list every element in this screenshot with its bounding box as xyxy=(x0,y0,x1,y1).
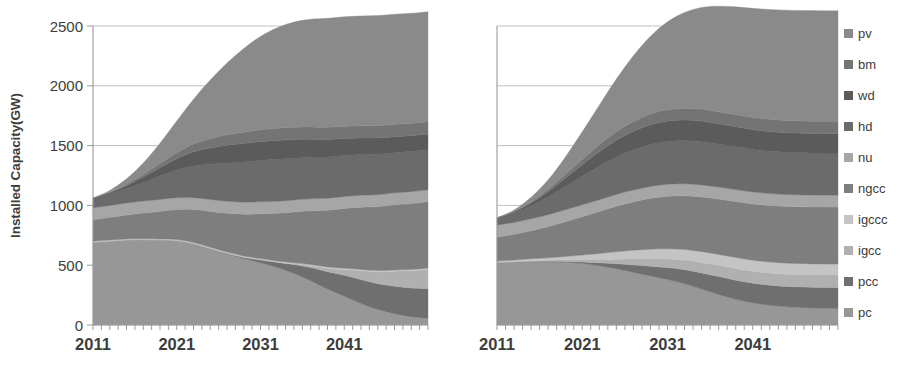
y-tick-label-1500: 1500 xyxy=(50,137,83,154)
chart-panel-left-chart: 050010001500200025002011202120312041 xyxy=(50,12,428,353)
y-tick-label-0: 0 xyxy=(75,317,83,334)
legend-label-pcc: pcc xyxy=(858,275,878,288)
legend-item-pcc[interactable]: pcc xyxy=(844,274,878,288)
legend-swatch-icon-pv xyxy=(844,29,853,38)
figure-root: Installed Capacity(GW) 05001000150020002… xyxy=(0,0,913,387)
legend-item-pc[interactable]: pc xyxy=(844,305,872,319)
legend-swatch-icon-hd xyxy=(844,122,853,131)
legend-item-ngcc[interactable]: ngcc xyxy=(844,181,885,195)
legend-item-igccc[interactable]: igccc xyxy=(844,212,888,226)
x-tick-label-2041: 2041 xyxy=(326,335,363,353)
stacked-area-charts: 0500100015002000250020112021203120412011… xyxy=(0,0,913,387)
y-tick-label-500: 500 xyxy=(58,257,83,274)
legend-item-wd[interactable]: wd xyxy=(844,88,875,102)
legend-label-pc: pc xyxy=(858,306,872,319)
legend-label-nu: nu xyxy=(858,151,872,164)
legend-label-igcc: igcc xyxy=(858,244,881,257)
legend-item-igcc[interactable]: igcc xyxy=(844,243,881,257)
legend-item-nu[interactable]: nu xyxy=(844,150,872,164)
legend-swatch-icon-igcc xyxy=(844,246,853,255)
y-tick-label-1000: 1000 xyxy=(50,197,83,214)
y-tick-label-2000: 2000 xyxy=(50,77,83,94)
chart-panel-right-chart: 2011202120312041 xyxy=(479,6,838,353)
legend-swatch-icon-nu xyxy=(844,153,853,162)
x-tick-label-2021: 2021 xyxy=(564,335,601,353)
x-tick-label-2021: 2021 xyxy=(158,335,195,353)
legend-label-igccc: igccc xyxy=(858,213,888,226)
legend-label-hd: hd xyxy=(858,120,872,133)
chart-legend: pvbmwdhdnungccigcccigccpccpc xyxy=(844,26,913,326)
x-tick-label-2011: 2011 xyxy=(75,335,111,353)
legend-swatch-icon-ngcc xyxy=(844,184,853,193)
legend-swatch-icon-bm xyxy=(844,60,853,69)
legend-label-pv: pv xyxy=(858,27,872,40)
legend-swatch-icon-pcc xyxy=(844,277,853,286)
x-tick-label-2031: 2031 xyxy=(649,335,686,353)
legend-label-bm: bm xyxy=(858,58,876,71)
x-tick-label-2031: 2031 xyxy=(242,335,279,353)
legend-swatch-icon-pc xyxy=(844,308,853,317)
x-tick-label-2011: 2011 xyxy=(479,335,515,353)
legend-label-wd: wd xyxy=(858,89,875,102)
x-tick-label-2041: 2041 xyxy=(734,335,771,353)
legend-swatch-icon-wd xyxy=(844,91,853,100)
y-tick-label-2500: 2500 xyxy=(50,18,83,35)
legend-item-bm[interactable]: bm xyxy=(844,57,876,71)
legend-label-ngcc: ngcc xyxy=(858,182,885,195)
legend-item-hd[interactable]: hd xyxy=(844,119,872,133)
legend-item-pv[interactable]: pv xyxy=(844,26,872,40)
legend-swatch-icon-igccc xyxy=(844,215,853,224)
